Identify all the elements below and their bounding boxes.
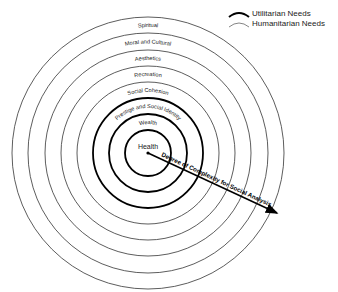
needs-diagram: HealthWealthPrestige and Social Identity… [0,0,338,292]
ring-label: Wealth [138,119,157,126]
ring-label: Spiritual [138,22,159,28]
legend-utilitarian-label: Utilitarian Needs [252,9,325,19]
ring-label: Health [138,143,158,150]
legend-utilitarian-icon [229,13,249,17]
legend-humanitarian-label: Humanitarian Needs [252,19,325,29]
ring-label: Social Cohesion [127,87,170,96]
concentric-rings-diagram: HealthWealthPrestige and Social Identity… [0,0,338,292]
ring-label: Recreation [134,71,163,78]
center-dot [146,151,149,154]
ring-label: Aesthetics [135,55,162,62]
legend-humanitarian-icon [229,23,249,27]
ring-label: Moral and Cultural [124,38,171,46]
ring-label: Prestige and Social Identity [114,103,183,121]
legend: Utilitarian Needs Humanitarian Needs [252,9,325,29]
